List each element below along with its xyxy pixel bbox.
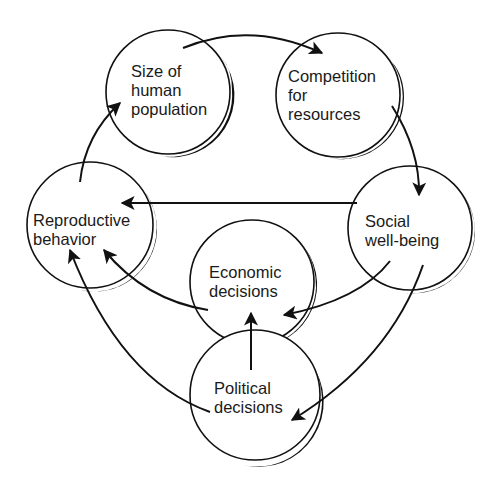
node-political-label: Political decisions [214, 379, 283, 416]
node-economic-label: Economic decisions [209, 263, 286, 300]
cycle-diagram: Size of human population Competition for… [0, 0, 502, 497]
